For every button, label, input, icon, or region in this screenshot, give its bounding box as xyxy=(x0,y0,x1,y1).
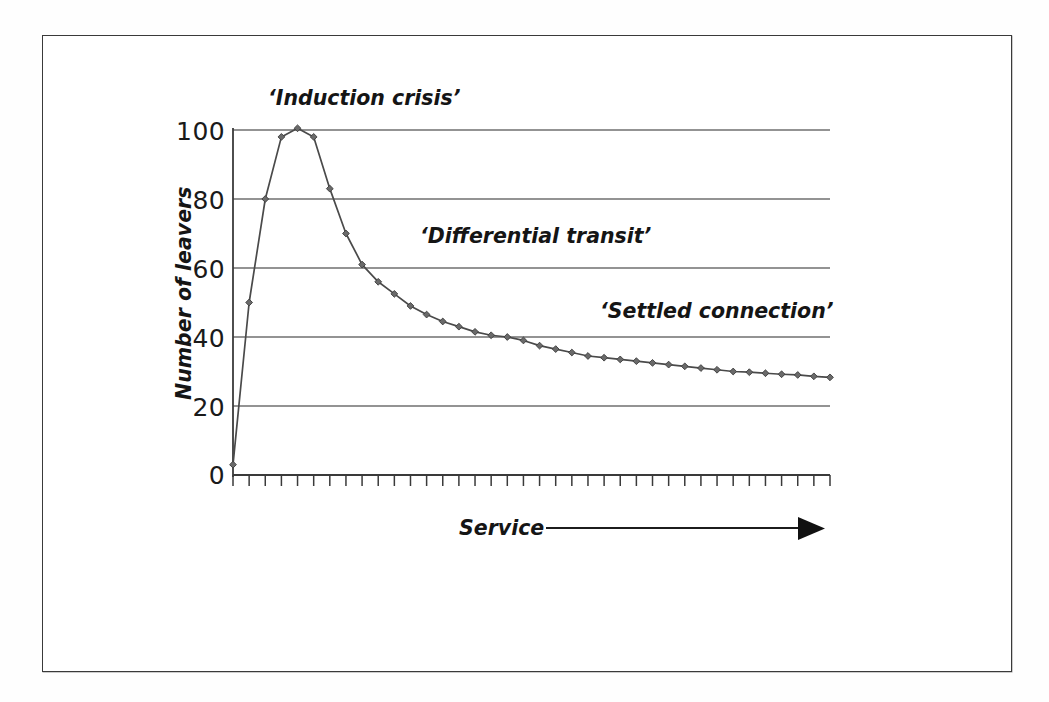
data-point-marker xyxy=(810,373,817,380)
data-point-marker xyxy=(536,342,543,349)
series-line xyxy=(233,128,830,464)
series-markers xyxy=(230,125,834,468)
data-point-marker xyxy=(617,356,624,363)
data-point-marker xyxy=(649,359,656,366)
data-point-marker xyxy=(262,196,269,203)
line-chart: 100 80 60 40 20 0 Number of leavers ‘Ind… xyxy=(0,0,1049,702)
y-tick-label-0: 0 xyxy=(209,461,225,490)
y-tick-label-60: 60 xyxy=(192,255,225,284)
data-point-marker xyxy=(633,358,640,365)
data-point-marker xyxy=(278,134,285,141)
figure-root: 100 80 60 40 20 0 Number of leavers ‘Ind… xyxy=(0,0,1049,702)
data-point-marker xyxy=(730,368,737,375)
data-point-marker xyxy=(230,461,237,468)
x-axis-arrow-head xyxy=(798,517,825,540)
data-point-marker xyxy=(310,134,317,141)
data-point-marker xyxy=(423,311,430,318)
data-point-marker xyxy=(794,372,801,379)
data-point-marker xyxy=(585,353,592,360)
data-point-marker xyxy=(714,366,721,373)
y-tick-label-40: 40 xyxy=(192,324,225,353)
data-point-marker xyxy=(778,371,785,378)
data-point-marker xyxy=(246,299,253,306)
x-axis-tickmarks xyxy=(233,475,830,486)
data-point-marker xyxy=(568,349,575,356)
data-point-marker xyxy=(343,230,350,237)
data-point-marker xyxy=(472,328,479,335)
annotation-settled-connection: ‘Settled connection’ xyxy=(600,299,834,323)
annotation-induction-crisis: ‘Induction crisis’ xyxy=(268,86,461,110)
gridlines xyxy=(233,130,830,406)
data-point-marker xyxy=(762,370,769,377)
data-point-marker xyxy=(326,185,333,192)
data-point-marker xyxy=(746,369,753,376)
annotation-differential-transit: ‘Differential transit’ xyxy=(420,224,652,248)
data-point-marker xyxy=(601,354,608,361)
data-point-marker xyxy=(665,361,672,368)
data-point-marker xyxy=(439,318,446,325)
data-point-marker xyxy=(504,334,511,341)
y-tick-label-100: 100 xyxy=(176,117,225,146)
data-point-marker xyxy=(455,323,462,330)
y-tick-label-20: 20 xyxy=(192,393,225,422)
x-axis-title: Service xyxy=(459,516,544,540)
data-point-marker xyxy=(698,365,705,372)
data-point-marker xyxy=(681,363,688,370)
data-point-marker xyxy=(827,374,834,381)
y-axis-title: Number of leavers xyxy=(172,187,196,400)
data-point-marker xyxy=(520,337,527,344)
y-tick-label-80: 80 xyxy=(192,186,225,215)
data-point-marker xyxy=(552,346,559,353)
